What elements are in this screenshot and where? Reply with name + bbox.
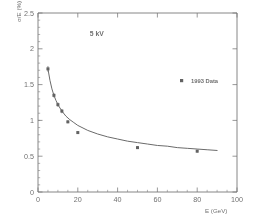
y-tick-label: 1 bbox=[30, 116, 34, 125]
data-point-marker bbox=[56, 103, 59, 106]
y-tick-label: 2.5 bbox=[24, 9, 34, 18]
filled-square-marker-icon bbox=[180, 79, 183, 82]
energy-resolution-figure: 00.511.522.5 020406080100 σ/E (%) E (GeV… bbox=[0, 0, 255, 224]
x-tick-label: 60 bbox=[153, 195, 161, 204]
data-point-marker bbox=[60, 110, 63, 113]
x-axis-ticks bbox=[38, 13, 237, 192]
x-tick-label: 0 bbox=[36, 195, 40, 204]
data-point-marker bbox=[136, 146, 139, 149]
plot-annotation-voltage: 5 kV bbox=[90, 30, 104, 37]
data-point-marker bbox=[46, 67, 49, 70]
data-point-marker bbox=[196, 150, 199, 153]
x-tick-label: 20 bbox=[74, 195, 82, 204]
x-tick-label: 80 bbox=[193, 195, 201, 204]
y-axis-title: σ/E (%) bbox=[15, 1, 22, 22]
plot-frame bbox=[38, 13, 237, 192]
y-tick-label: 0.5 bbox=[24, 152, 34, 161]
y-tick-label: 0 bbox=[30, 188, 34, 197]
x-axis-tick-labels: 020406080100 bbox=[36, 195, 243, 204]
axis-lines bbox=[38, 13, 237, 192]
data-point-marker bbox=[66, 120, 69, 123]
x-axis-title: E (GeV) bbox=[205, 207, 227, 214]
screenshot-root: 00.511.522.5 020406080100 σ/E (%) E (GeV… bbox=[0, 0, 255, 224]
x-tick-label: 40 bbox=[114, 195, 122, 204]
x-tick-label: 100 bbox=[231, 195, 243, 204]
y-tick-label: 2 bbox=[30, 44, 34, 53]
frame-box-top-right bbox=[38, 13, 237, 192]
data-point-marker bbox=[52, 94, 55, 97]
y-tick-label: 1.5 bbox=[24, 80, 34, 89]
y-axis-tick-labels: 00.511.522.5 bbox=[24, 9, 34, 197]
y-axis-ticks bbox=[38, 13, 237, 192]
data-point-marker bbox=[76, 131, 79, 134]
legend: 1993 Data bbox=[180, 78, 219, 84]
plot-svg: 00.511.522.5 020406080100 σ/E (%) E (GeV… bbox=[0, 0, 255, 224]
legend-label-1993-data: 1993 Data bbox=[191, 78, 219, 84]
